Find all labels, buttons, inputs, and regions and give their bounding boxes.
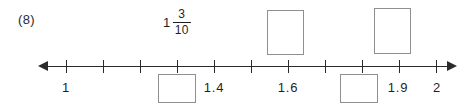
arrow-left-icon	[38, 61, 48, 71]
fraction-numerator: 3	[176, 8, 187, 21]
tick-mark	[325, 60, 326, 73]
tick-mark	[362, 60, 363, 73]
answer-box[interactable]	[267, 10, 304, 55]
number-line-worksheet: (8) 1 3 10 11.41.61.92	[0, 0, 475, 107]
tick-label: 1.6	[278, 80, 298, 95]
tick-label: 1.9	[388, 80, 408, 95]
tick-label: 1.4	[204, 80, 224, 95]
mixed-fraction-annotation: 1 3 10	[163, 8, 191, 36]
tick-label: 2	[433, 80, 441, 95]
tick-mark	[251, 60, 252, 73]
tick-mark	[103, 60, 104, 73]
tick-mark	[140, 60, 141, 73]
question-number: (8)	[18, 12, 35, 27]
tick-mark	[436, 60, 437, 73]
tick-mark	[66, 60, 67, 73]
tick-mark	[214, 60, 215, 73]
number-line-axis	[45, 66, 449, 67]
tick-mark	[399, 60, 400, 73]
fraction-whole-number: 1	[163, 15, 171, 30]
arrow-right-icon	[447, 61, 457, 71]
answer-box[interactable]	[158, 74, 196, 103]
fraction-denominator: 10	[173, 24, 191, 37]
fraction: 3 10	[173, 8, 191, 36]
tick-label: 1	[62, 80, 70, 95]
answer-box[interactable]	[340, 74, 378, 103]
tick-mark	[177, 60, 178, 73]
tick-mark	[288, 60, 289, 73]
answer-box[interactable]	[374, 8, 411, 54]
